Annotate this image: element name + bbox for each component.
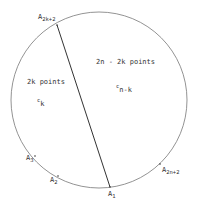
circle-chord-diagram: A2k+2 A1 A2 A3 A2n+2 2k points 2n - 2k p… [0,0,203,211]
region-label-right: 2n - 2k points [96,58,155,66]
point-dot-a2 [57,175,59,177]
label-a2n2: A2n+2 [162,166,179,175]
point-dot-a2k2 [56,24,58,26]
label-a3: A3 [26,154,34,163]
constant-ck: ck [37,97,45,108]
chord-a2k2-a1 [57,25,110,187]
label-a1: A1 [108,190,116,199]
region-label-left: 2k points [27,78,65,86]
label-a2k2: A2k+2 [38,13,55,22]
point-dot-a1 [109,186,111,188]
point-dot-a2n2 [159,163,161,165]
point-dot-a3 [34,155,36,157]
constant-cnk: cn-k [116,83,133,94]
